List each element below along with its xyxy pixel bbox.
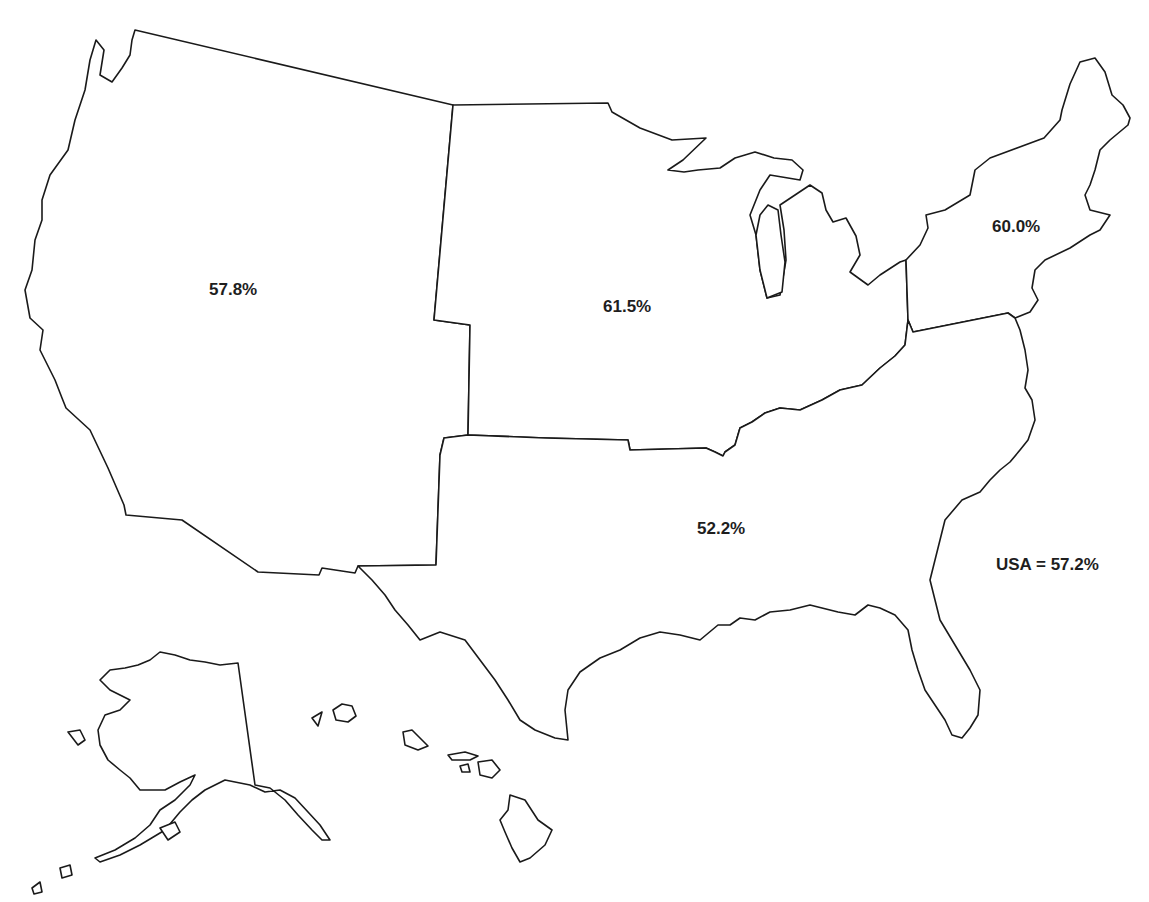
alaska-island-3	[32, 882, 42, 894]
hawaii-maui	[478, 760, 500, 778]
region-label-west: 57.8%	[209, 280, 257, 300]
hawaii-big-island	[500, 795, 552, 862]
inset-alaska	[95, 652, 330, 862]
hawaii-kauai	[333, 704, 356, 722]
region-west	[25, 30, 470, 575]
hawaii-niihau	[312, 712, 322, 726]
us-regions-map	[0, 0, 1149, 902]
region-label-northeast: 60.0%	[992, 217, 1040, 237]
hawaii-lanai	[460, 764, 470, 772]
hawaii-molokai	[448, 752, 478, 760]
alaska-island-2	[60, 865, 72, 878]
region-label-midwest: 61.5%	[603, 297, 651, 317]
hawaii-oahu	[403, 730, 428, 750]
region-label-south: 52.2%	[697, 519, 745, 539]
alaska-island-1	[68, 730, 85, 745]
usa-total-label: USA = 57.2%	[996, 555, 1099, 575]
region-northeast	[906, 58, 1130, 332]
